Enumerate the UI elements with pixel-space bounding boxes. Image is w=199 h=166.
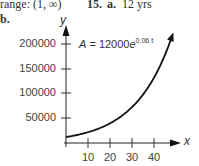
y-axis-label: y xyxy=(60,13,66,27)
curve-arrow-icon xyxy=(167,32,174,42)
x-tick-label: 20 xyxy=(100,151,120,163)
x-tick-label: 10 xyxy=(78,151,98,163)
y-tick-label: 150000 xyxy=(4,62,56,74)
equation-prefix: = 12000 xyxy=(86,38,129,50)
exponential-curve xyxy=(66,37,172,137)
x-axis-arrow-icon xyxy=(170,140,181,147)
equation-exponent: 0.06 t xyxy=(136,37,154,44)
chart-canvas xyxy=(0,0,199,166)
y-tick-label: 50000 xyxy=(4,111,56,123)
x-axis-label: x xyxy=(184,134,190,148)
y-tick-label: 100000 xyxy=(4,86,56,98)
curve-equation: A = 12000e0.06 t xyxy=(79,37,153,50)
x-tick-label: 40 xyxy=(144,151,164,163)
x-tick-label: 30 xyxy=(122,151,142,163)
y-tick-label: 200000 xyxy=(4,37,56,49)
